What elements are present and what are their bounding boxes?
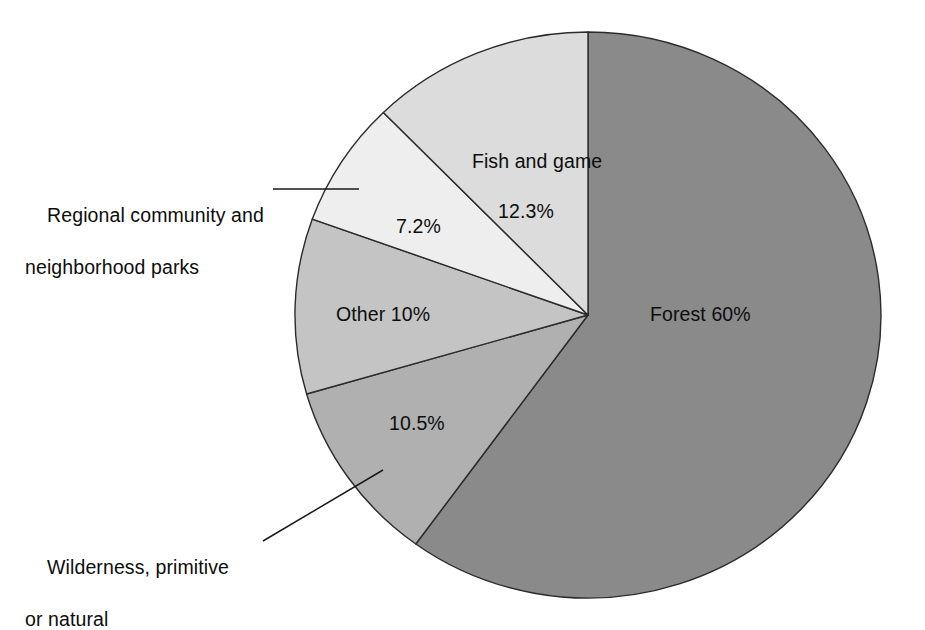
callout-label-wilderness-line2: or natural — [25, 606, 229, 630]
slice-label-fish-and-game-value: 12.3% — [436, 199, 616, 224]
callout-label-wilderness-line1: Wilderness, primitive — [47, 556, 229, 578]
slice-value-regional-parks: 7.2% — [396, 214, 441, 239]
leader-line-wilderness — [263, 470, 383, 541]
callout-label-regional-parks-line2: neighborhood parks — [25, 254, 264, 280]
callout-label-regional-parks: Regional community and neighborhood park… — [25, 176, 264, 332]
callout-label-wilderness: Wilderness, primitive or natural — [25, 528, 229, 630]
slice-label-fish-and-game: Fish and game 12.3% — [436, 124, 616, 274]
slice-value-wilderness: 10.5% — [389, 411, 445, 436]
slice-label-other: Other 10% — [336, 302, 430, 327]
slice-label-fish-and-game-name: Fish and game — [472, 150, 602, 172]
callout-label-regional-parks-line1: Regional community and — [47, 204, 264, 226]
slice-label-forest: Forest 60% — [650, 302, 751, 327]
